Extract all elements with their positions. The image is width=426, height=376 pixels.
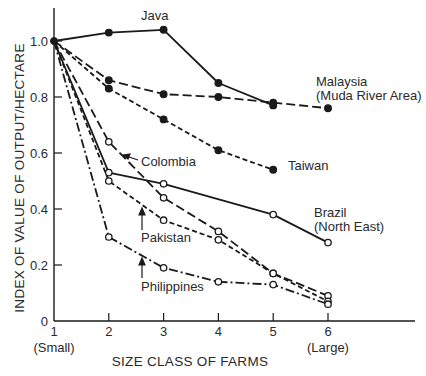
- label-brazil-sub: (North East): [314, 219, 384, 234]
- series-line-philippines: [54, 41, 328, 304]
- data-point-taiwan: [215, 147, 222, 154]
- y-tick-label: 0: [41, 314, 48, 329]
- data-point-brazil-north-east: [106, 169, 112, 175]
- data-point-philippines: [215, 279, 221, 285]
- y-tick-label: 0.6: [30, 146, 48, 161]
- data-point-taiwan: [106, 85, 113, 92]
- data-point-java: [215, 80, 222, 87]
- x-tick-label: 1: [50, 324, 57, 339]
- annotation-arrows: [123, 154, 145, 278]
- label-taiwan: Taiwan: [288, 158, 328, 173]
- data-point-pakistan: [215, 237, 221, 243]
- data-point-malaysia-muda-river-area: [215, 94, 222, 101]
- y-tick-label: 0.2: [30, 258, 48, 273]
- label-pakistan: Pakistan: [141, 230, 191, 245]
- data-point-malaysia-muda-river-area: [325, 105, 332, 112]
- data-point-pakistan: [270, 270, 276, 276]
- data-point-malaysia-muda-river-area: [270, 99, 277, 106]
- series-line-pakistan: [54, 41, 328, 301]
- y-tick-label: 1.0: [30, 34, 48, 49]
- line-chart: 00.20.40.60.81.01(Small)23456(Large) IND…: [0, 0, 426, 376]
- data-point-brazil-north-east: [325, 239, 331, 245]
- x-tick-label: 5: [270, 324, 277, 339]
- data-point-pakistan: [160, 217, 166, 223]
- label-colombia: Colombia: [141, 154, 197, 169]
- y-axis-title: INDEX OF VALUE OF OUTPUT/HECTARE: [12, 43, 27, 312]
- data-point-philippines: [270, 281, 276, 287]
- x-tick-label: 3: [160, 324, 167, 339]
- data-point-origin: [51, 38, 58, 45]
- data-point-taiwan: [160, 116, 167, 123]
- x-tick-label: 6: [324, 324, 331, 339]
- data-point-philippines: [160, 265, 166, 271]
- data-point-pakistan: [106, 178, 112, 184]
- data-point-colombia: [160, 195, 166, 201]
- x-tick-label: 2: [105, 324, 112, 339]
- data-point-java: [160, 27, 167, 34]
- label-java: Java: [141, 8, 169, 23]
- x-tick-sublabel: (Small): [33, 340, 74, 355]
- y-tick-label: 0.4: [30, 202, 48, 217]
- data-point-philippines: [325, 301, 331, 307]
- series-line-taiwan: [54, 41, 273, 170]
- data-point-taiwan: [270, 167, 277, 174]
- x-tick-label: 4: [215, 324, 222, 339]
- label-brazil: Brazil: [314, 205, 347, 220]
- data-point-brazil-north-east: [160, 181, 166, 187]
- data-point-malaysia-muda-river-area: [160, 91, 167, 98]
- x-tick-sublabel: (Large): [307, 340, 349, 355]
- data-point-colombia: [106, 139, 112, 145]
- data-point-brazil-north-east: [270, 211, 276, 217]
- label-malaysia-sub: (Muda River Area): [316, 88, 421, 103]
- label-malaysia: Malaysia: [316, 74, 368, 89]
- arrowhead-philippines-icon: [139, 258, 145, 265]
- arrowhead-pakistan-icon: [139, 208, 145, 215]
- data-point-colombia: [215, 228, 221, 234]
- label-philippines: Philippines: [141, 279, 204, 294]
- axes: 00.20.40.60.81.01(Small)23456(Large): [30, 8, 415, 355]
- series-line-brazil-north-east: [54, 41, 328, 243]
- data-point-java: [106, 29, 113, 36]
- data-point-malaysia-muda-river-area: [106, 77, 113, 84]
- series-line-malaysia-muda-river-area: [54, 41, 328, 108]
- data-point-philippines: [106, 234, 112, 240]
- x-axis-title: SIZE CLASS OF FARMS: [112, 354, 268, 369]
- y-tick-label: 0.8: [30, 90, 48, 105]
